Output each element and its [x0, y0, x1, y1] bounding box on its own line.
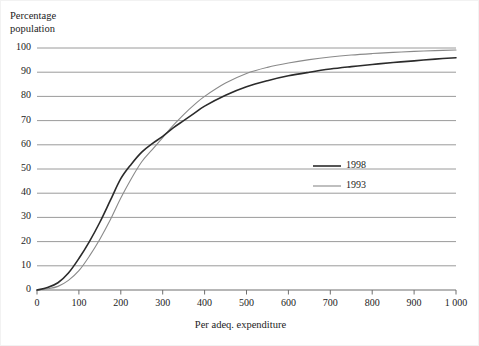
- y-tick-label: 50: [5, 162, 31, 173]
- y-tick-label: 20: [5, 235, 31, 246]
- x-tick-label: 200: [98, 297, 144, 308]
- series-line-1998: [37, 58, 456, 290]
- x-tick-label: 300: [140, 297, 186, 308]
- y-tick-label: 70: [5, 114, 31, 125]
- y-tick-label: 100: [5, 41, 31, 52]
- x-tick-label: 500: [224, 297, 270, 308]
- legend-label-1993: 1993: [346, 179, 366, 190]
- y-tick-label: 80: [5, 89, 31, 100]
- plot-area: [1, 1, 479, 346]
- gridlines-group: [37, 48, 456, 266]
- y-tick-label: 40: [5, 186, 31, 197]
- y-tick-label: 90: [5, 65, 31, 76]
- x-axis-title: Per adeq. expenditure: [1, 318, 479, 331]
- x-tick-label: 400: [182, 297, 228, 308]
- x-tick-label: 900: [391, 297, 437, 308]
- x-tick-label: 0: [14, 297, 60, 308]
- y-tick-label: 30: [5, 210, 31, 221]
- x-axis-group: [37, 290, 456, 295]
- x-tick-label: 600: [265, 297, 311, 308]
- x-tick-label: 1 000: [433, 297, 479, 308]
- x-tick-label: 100: [56, 297, 102, 308]
- data-series-group: [37, 50, 456, 290]
- legend-label-1998: 1998: [346, 159, 366, 170]
- x-tick-label: 800: [349, 297, 395, 308]
- y-tick-label: 60: [5, 138, 31, 149]
- x-tick-label: 700: [307, 297, 353, 308]
- y-tick-label: 0: [5, 283, 31, 294]
- chart-figure: Percentagepopulation 0102030405060708090…: [0, 0, 479, 346]
- y-tick-label: 10: [5, 259, 31, 270]
